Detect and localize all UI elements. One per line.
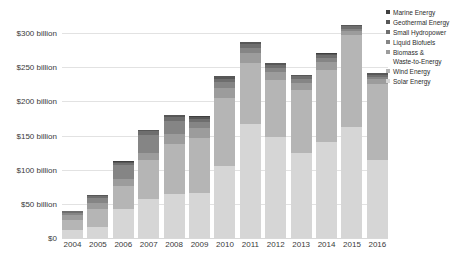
y-tick-label: $300 billion — [17, 29, 57, 38]
bar-segment[interactable] — [113, 186, 134, 210]
bar-segment[interactable] — [316, 70, 337, 142]
legend-item[interactable]: Small Hydropower — [386, 28, 458, 37]
legend-label: Biomass & Waste-to-Energy — [393, 48, 442, 66]
x-tick-label: 2006 — [113, 240, 134, 249]
legend-label: Wind Energy — [393, 67, 430, 76]
legend-swatch-icon — [386, 79, 390, 83]
y-tick-label: $0 — [48, 234, 57, 243]
bar-segment[interactable] — [316, 142, 337, 238]
x-tick-label: 2011 — [240, 240, 261, 249]
bar-segment[interactable] — [62, 230, 83, 238]
x-tick-label: 2005 — [87, 240, 108, 249]
bar-column[interactable] — [62, 16, 83, 238]
x-tick-label: 2008 — [164, 240, 185, 249]
bar-segment[interactable] — [189, 193, 210, 238]
bar-segment[interactable] — [189, 138, 210, 193]
bar-segment[interactable] — [240, 63, 261, 124]
bar-column[interactable] — [265, 16, 286, 238]
bar-segment[interactable] — [214, 166, 235, 238]
bar-segment[interactable] — [214, 88, 235, 98]
y-tick-label: $200 billion — [17, 97, 57, 106]
bar-segment[interactable] — [316, 62, 337, 70]
bar-segment[interactable] — [138, 135, 159, 153]
x-tick-label: 2007 — [138, 240, 159, 249]
bar-segment[interactable] — [265, 72, 286, 80]
bar-segment[interactable] — [138, 160, 159, 199]
bar-segment[interactable] — [341, 127, 362, 238]
bar-segment[interactable] — [164, 194, 185, 238]
bar-column[interactable] — [189, 16, 210, 238]
bar-segment[interactable] — [138, 153, 159, 161]
bar-segment[interactable] — [291, 83, 312, 91]
legend-label: Geothermal Energy — [393, 18, 449, 27]
bar-column[interactable] — [316, 16, 337, 238]
x-axis-labels: 2004200520062007200820092010201120122013… — [62, 240, 388, 249]
bar-segment[interactable] — [164, 144, 185, 195]
bar-column[interactable] — [113, 16, 134, 238]
bar-segment[interactable] — [367, 84, 388, 161]
x-tick-label: 2012 — [265, 240, 286, 249]
x-tick-label: 2004 — [62, 240, 83, 249]
bar-column[interactable] — [164, 16, 185, 238]
bar-segment[interactable] — [87, 209, 108, 227]
chart-legend: Marine EnergyGeothermal EnergySmall Hydr… — [386, 8, 458, 87]
legend-item[interactable]: Geothermal Energy — [386, 18, 458, 27]
bar-column[interactable] — [240, 16, 261, 238]
bar-segment[interactable] — [367, 160, 388, 238]
x-tick-label: 2010 — [214, 240, 235, 249]
y-tick-label: $150 billion — [17, 131, 57, 140]
bar-column[interactable] — [341, 16, 362, 238]
bar-segment[interactable] — [265, 80, 286, 137]
bar-column[interactable] — [291, 16, 312, 238]
bar-segment[interactable] — [138, 199, 159, 238]
bar-segment[interactable] — [164, 134, 185, 144]
legend-item[interactable]: Solar Energy — [386, 77, 458, 86]
bar-segment[interactable] — [113, 209, 134, 238]
bar-column[interactable] — [214, 16, 235, 238]
bar-segment[interactable] — [214, 98, 235, 166]
bar-segment[interactable] — [341, 35, 362, 126]
stacked-bar-chart: $0$50 billion$100 billion$150 billion$20… — [0, 0, 459, 254]
y-tick-label: $100 billion — [17, 165, 57, 174]
y-axis-labels: $0$50 billion$100 billion$150 billion$20… — [0, 0, 59, 254]
bar-segment[interactable] — [291, 90, 312, 153]
bar-segment[interactable] — [240, 124, 261, 238]
x-tick-label: 2016 — [367, 240, 388, 249]
bar-segment[interactable] — [189, 128, 210, 137]
gridline-0 — [62, 238, 388, 239]
legend-label: Liquid Biofuels — [393, 38, 435, 47]
legend-item[interactable]: Liquid Biofuels — [386, 38, 458, 47]
bar-segment[interactable] — [265, 137, 286, 238]
legend-label: Small Hydropower — [393, 28, 446, 37]
legend-swatch-icon — [386, 30, 390, 34]
bar-column[interactable] — [138, 16, 159, 238]
bar-segment[interactable] — [240, 53, 261, 63]
x-tick-label: 2009 — [189, 240, 210, 249]
legend-swatch-icon — [386, 69, 390, 73]
legend-label: Marine Energy — [393, 8, 435, 17]
bar-column[interactable] — [87, 16, 108, 238]
legend-swatch-icon — [386, 10, 390, 14]
legend-item[interactable]: Wind Energy — [386, 67, 458, 76]
plot-area — [62, 16, 388, 238]
x-tick-label: 2013 — [291, 240, 312, 249]
legend-swatch-icon — [386, 20, 390, 24]
legend-label: Solar Energy — [393, 77, 431, 86]
bar-series-container — [62, 16, 388, 238]
y-tick-label: $50 billion — [21, 199, 57, 208]
bar-segment[interactable] — [113, 165, 134, 179]
bar-segment[interactable] — [87, 227, 108, 238]
bar-segment[interactable] — [62, 220, 83, 230]
bar-column[interactable] — [367, 16, 388, 238]
legend-item[interactable]: Marine Energy — [386, 8, 458, 17]
legend-item[interactable]: Biomass & Waste-to-Energy — [386, 48, 458, 66]
legend-swatch-icon — [386, 40, 390, 44]
bar-segment[interactable] — [291, 153, 312, 238]
legend-swatch-icon — [386, 50, 390, 54]
y-tick-label: $250 billion — [17, 63, 57, 72]
x-tick-label: 2014 — [316, 240, 337, 249]
bar-segment[interactable] — [164, 121, 185, 134]
x-tick-label: 2015 — [341, 240, 362, 249]
